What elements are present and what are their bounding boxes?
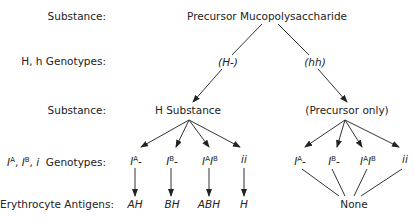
h-substance: H Substance [155, 104, 221, 116]
antigen-bh: BH [164, 198, 179, 210]
right-genotype-ii: ii [402, 153, 408, 165]
precursor-only: (Precursor only) [305, 104, 388, 116]
left-genotype-ii: ii [241, 153, 247, 165]
precursor-substance: Precursor Mucopolysaccharide [187, 10, 347, 22]
genotype-h-dominant: (H-) [218, 56, 238, 68]
genotype-hh: (hh) [304, 56, 326, 68]
antigen-ah: AH [127, 198, 142, 210]
left-genotype-ib: IB- [166, 153, 178, 167]
left-genotype-ia: IA- [130, 153, 142, 167]
row-label-substance-2: Substance: [0, 104, 106, 116]
row-label-h-genotypes: H, h Genotypes: [0, 55, 106, 67]
left-genotype-iaib: IAIB [202, 153, 218, 167]
row-label-abo-genotypes: IA, IB, i Genotypes: [0, 154, 106, 168]
antigen-h: H [240, 198, 248, 210]
right-genotype-ib: IB- [328, 153, 340, 167]
row-label-substance: Substance: [0, 10, 106, 22]
antigen-none: None [340, 198, 367, 210]
right-genotype-iaib: IAIB [360, 153, 376, 167]
row-label-antigens: Erythrocyte Antigens: [0, 198, 106, 210]
right-genotype-ia: IA- [294, 153, 306, 167]
antigen-abh: ABH [198, 198, 220, 210]
